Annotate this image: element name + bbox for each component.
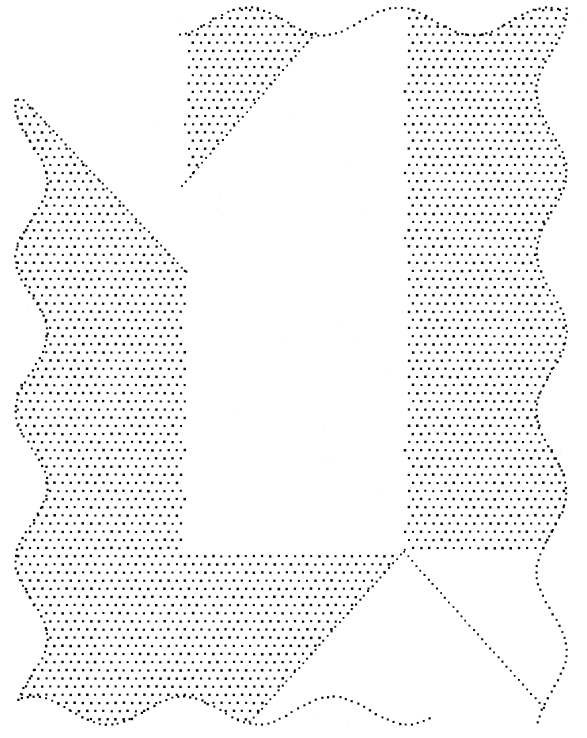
dot-stipple-figure: Dotted pinwheel lattice figure Rotationa… xyxy=(0,0,587,738)
stipple-canvas xyxy=(0,0,587,738)
